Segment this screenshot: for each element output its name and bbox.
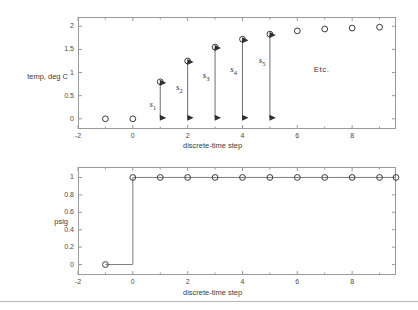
y-tick-label: 0.6 <box>52 208 74 215</box>
y-axis-label-top: temp, deg C <box>6 72 68 81</box>
y-tick-label: 0 <box>52 115 74 122</box>
data-point-marker <box>322 26 328 32</box>
annotation-s3: s3 <box>203 70 210 82</box>
x-tick-label: 6 <box>288 132 306 139</box>
y-axis-label-bottom: psig <box>6 217 68 226</box>
y-tick-label: 1.5 <box>52 45 74 52</box>
annotation-s2: s2 <box>176 82 183 94</box>
data-point-marker <box>103 116 109 122</box>
annotation-s4: s4 <box>230 64 237 76</box>
x-tick-label: 2 <box>179 132 197 139</box>
chart-panel-psig: -20246800.20.40.60.81 psig discrete-time… <box>0 155 418 300</box>
chart-panel-temperature: -20246800.511.52s1s2s3s4s5 temp, deg C d… <box>0 0 418 155</box>
step-signal-line <box>105 177 396 264</box>
y-tick-label: 0.2 <box>52 243 74 250</box>
data-point-marker <box>294 28 300 34</box>
y-tick-label: 0 <box>52 261 74 268</box>
data-point-marker <box>130 116 136 122</box>
y-tick-label: 1 <box>52 173 74 180</box>
figure-canvas: -20246800.511.52s1s2s3s4s5 temp, deg C d… <box>0 0 418 310</box>
y-tick-label: 2 <box>52 22 74 29</box>
x-tick-label: -2 <box>69 132 87 139</box>
x-tick-label: 0 <box>124 278 142 285</box>
data-point-marker <box>377 24 383 30</box>
y-tick-label: 0.8 <box>52 191 74 198</box>
x-tick-label: 8 <box>343 132 361 139</box>
y-tick-label: 0.4 <box>52 226 74 233</box>
x-axis-label-top: discrete-time step <box>183 141 242 150</box>
x-tick-label: 4 <box>233 132 251 139</box>
x-tick-label: 0 <box>124 132 142 139</box>
annotation-s1: s1 <box>150 99 157 111</box>
x-tick-label: 2 <box>179 278 197 285</box>
x-tick-label: 6 <box>288 278 306 285</box>
annotation-s5: s5 <box>259 55 266 67</box>
x-tick-label: 8 <box>343 278 361 285</box>
etc-annotation: Etc. <box>314 65 330 74</box>
x-axis-label-bottom: discrete-time step <box>183 288 242 297</box>
x-tick-label: -2 <box>69 278 87 285</box>
footer-divider <box>0 301 418 302</box>
y-tick-label: 0.5 <box>52 92 74 99</box>
x-tick-label: 4 <box>233 278 251 285</box>
data-point-marker <box>349 25 355 31</box>
